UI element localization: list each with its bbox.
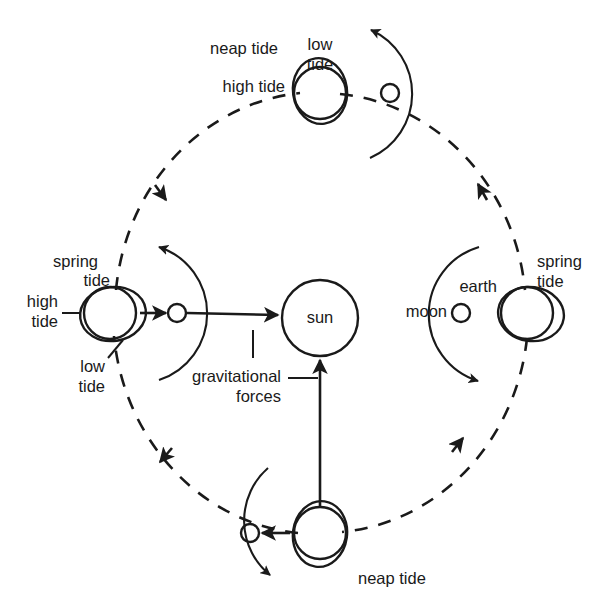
label-earth-right: earth (459, 277, 497, 295)
label-low-tide-left-line2: tide (78, 377, 105, 395)
label-spring-tide-right-line1: spring (537, 252, 582, 270)
position-top: neap tide high tide low tide (210, 30, 412, 158)
label-gravitational-forces-line1: gravitational (192, 367, 281, 385)
label-neap-tide-bottom: neap tide (358, 569, 426, 587)
label-low-tide-top-line1: low (308, 35, 333, 53)
moon-orbit-arc-top (370, 30, 412, 158)
earth-body-left (84, 287, 136, 339)
gravitational-forces-annotation: gravitational forces (192, 330, 318, 405)
sun-label: sun (307, 308, 334, 326)
tide-diagram: sun spring tide high tide low tide neap … (0, 0, 607, 615)
label-spring-tide-left-line1: spring (53, 252, 98, 270)
earth-body-bottom (294, 507, 346, 559)
diagram-canvas: sun spring tide high tide low tide neap … (0, 0, 607, 615)
label-gravitational-forces-line2: forces (236, 387, 281, 405)
label-spring-tide-left-line2: tide (83, 271, 110, 289)
label-high-tide-top: high tide (223, 77, 285, 95)
earth-tidal-bulge-right (495, 283, 568, 346)
label-low-tide-left-line1: low (80, 357, 105, 375)
moon-body-left (168, 304, 186, 322)
label-spring-tide-right-line2: tide (537, 272, 564, 290)
earth-body-right (501, 287, 553, 339)
earth-body-top (294, 67, 346, 119)
label-high-tide-left-line2: tide (31, 312, 58, 330)
moon-body-top (381, 84, 399, 102)
label-neap-tide-top: neap tide (210, 39, 278, 57)
position-right: earth moon spring tide (406, 247, 582, 381)
earth-tidal-bulge-left (77, 283, 150, 346)
label-high-tide-left-line1: high (27, 292, 58, 310)
label-low-tide-top-line2: tide (307, 55, 334, 73)
moon-body-right (452, 304, 470, 322)
label-moon-right: moon (406, 302, 447, 320)
force-arrow-moon-to-sun-left (187, 313, 278, 315)
